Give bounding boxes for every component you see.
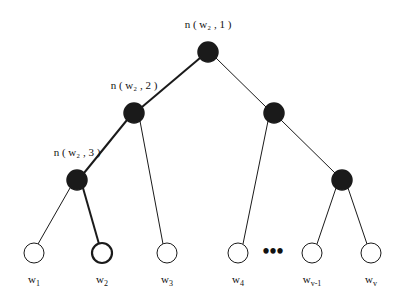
internal-node[interactable]: [124, 103, 144, 123]
leaf-node-subscript: v-1: [311, 279, 322, 288]
leaf-nodes-group: [24, 243, 381, 263]
leaf-node-label: w2: [96, 273, 108, 288]
internal-node-label: n ( w₂ , 3 ): [54, 146, 101, 159]
leaf-node-subscript: 2: [104, 279, 108, 288]
leaf-node-label: wv-1: [303, 273, 322, 288]
leaf-node[interactable]: [228, 243, 248, 263]
leaf-node[interactable]: [92, 243, 112, 263]
ellipsis-annotation: •••: [262, 240, 283, 262]
leaf-node-label: w4: [232, 273, 244, 288]
internal-node[interactable]: [67, 170, 87, 190]
leaf-node[interactable]: [361, 243, 381, 263]
leaf-node[interactable]: [157, 243, 177, 263]
tree-edge: [216, 58, 266, 107]
leaf-node[interactable]: [302, 243, 322, 263]
tree-edge: [281, 120, 335, 173]
leaf-node-label: w1: [28, 273, 40, 288]
tree-edge: [38, 188, 70, 244]
tree-edge: [348, 188, 367, 244]
tree-edge: [243, 121, 268, 244]
internal-node[interactable]: [198, 42, 218, 62]
leaf-node-label: w3: [161, 273, 173, 288]
annotations-group: •••: [262, 240, 283, 262]
tree-edge: [317, 188, 336, 244]
tree-edge: [140, 121, 163, 244]
tree-edge: [83, 188, 99, 244]
leaf-node-subscript: 4: [240, 279, 244, 288]
leaf-node-label: wv: [365, 273, 377, 288]
internal-node[interactable]: [332, 170, 352, 190]
tree-diagram: n ( w₂ , 1 )n ( w₂ , 2 )n ( w₂ , 3 )w1w2…: [0, 0, 399, 303]
leaf-node-subscript: 1: [36, 279, 40, 288]
leaf-node-subscript: v: [373, 279, 377, 288]
leaf-node-subscript: 3: [169, 279, 173, 288]
internal-node-label: n ( w₂ , 2 ): [111, 79, 158, 92]
leaf-node[interactable]: [24, 243, 44, 263]
internal-nodes-group: [67, 42, 352, 190]
tree-svg: n ( w₂ , 1 )n ( w₂ , 2 )n ( w₂ , 3 )w1w2…: [0, 0, 399, 303]
internal-node-label: n ( w₂ , 1 ): [185, 18, 232, 31]
internal-node[interactable]: [264, 103, 284, 123]
